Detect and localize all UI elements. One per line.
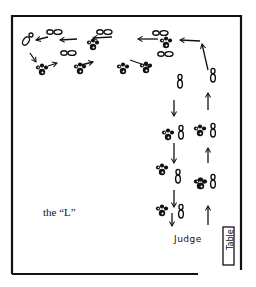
- diagram-title: the “L”: [43, 206, 76, 218]
- judge-label: Judge: [174, 234, 202, 244]
- paw-print-icon: [36, 63, 48, 75]
- arrow-icon: [93, 37, 112, 38]
- arrow-icon: [36, 37, 48, 40]
- paw-print-icon: [87, 38, 99, 50]
- paw-print-icon: [195, 177, 207, 189]
- arrow-icon: [202, 44, 208, 70]
- footprint-icon: [179, 204, 184, 218]
- paw-print-icon: [156, 204, 168, 216]
- arrow-icon: [180, 40, 200, 41]
- arrow-icon: [81, 62, 93, 65]
- footprint-icon: [211, 68, 216, 82]
- paw-print-icon: [140, 61, 152, 73]
- footprint-icon: [211, 123, 216, 137]
- footprint-icon: [61, 51, 76, 56]
- paw-print-icon: [117, 62, 129, 74]
- handler-footprints: [21, 30, 215, 218]
- paw-print-icon: [156, 163, 168, 175]
- arrow-icon: [30, 53, 36, 62]
- paw-print-icon: [162, 128, 174, 140]
- ring-border: [12, 16, 241, 274]
- footprint-icon: [97, 30, 112, 35]
- footprint-icon: [47, 30, 62, 35]
- paw-print-icon: [160, 36, 172, 48]
- footprint-icon: [178, 74, 183, 88]
- footprint-icon: [158, 52, 173, 57]
- footprint-icon: [153, 31, 168, 36]
- diagram-canvas: [0, 0, 256, 287]
- footprint-icon: [176, 169, 181, 183]
- footprint-icon: [211, 174, 216, 188]
- arrow-icon: [48, 63, 57, 66]
- dog-paw-prints: [36, 36, 207, 216]
- paw-print-icon: [194, 124, 206, 136]
- footprint-icon: [179, 125, 184, 139]
- arrow-icon: [60, 39, 77, 40]
- footprint-icon: [21, 33, 33, 46]
- table-label: Table: [226, 229, 235, 250]
